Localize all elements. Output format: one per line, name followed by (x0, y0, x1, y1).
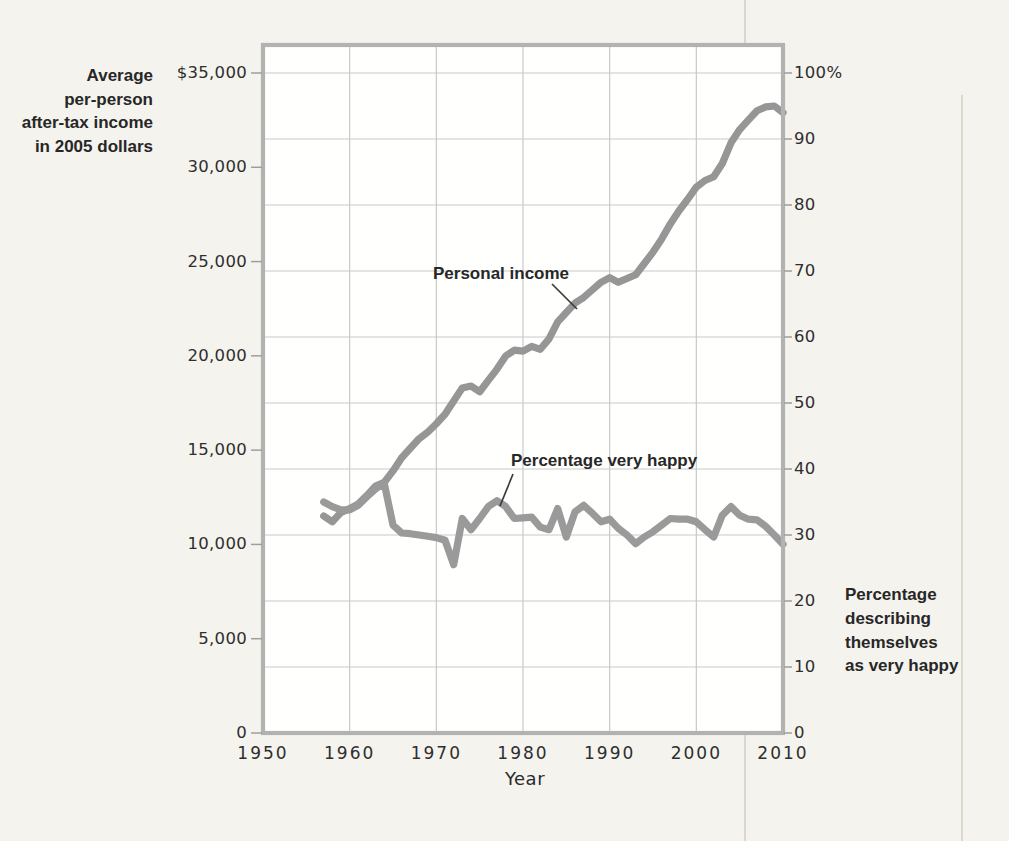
right-axis-tick-0: 0 (794, 723, 805, 742)
x-axis-tick-2010: 2010 (757, 743, 808, 763)
right-axis-tick-30: 30 (794, 525, 816, 544)
income-series-label: Personal income (433, 264, 569, 284)
x-axis-tick-1970: 1970 (411, 743, 462, 763)
happiness-series-label: Percentage very happy (511, 451, 697, 471)
right-axis-tick-60: 60 (794, 327, 816, 346)
left-axis-title-line3: after-tax income (22, 111, 153, 135)
right-axis-tick-50: 50 (794, 393, 816, 412)
left-axis-title-line4: in 2005 dollars (22, 135, 153, 159)
left-axis-tick-35000: $35,000 (177, 63, 247, 82)
x-axis-title: Year (505, 768, 545, 789)
x-axis-tick-1980: 1980 (497, 743, 548, 763)
left-axis-tick-25000: 25,000 (187, 251, 247, 270)
right-axis-tick-100: 100% (794, 63, 842, 82)
left-axis-title-line1: Average (22, 64, 153, 88)
right-axis-tick-40: 40 (794, 459, 816, 478)
right-axis-tick-20: 20 (794, 591, 816, 610)
right-axis-title: Percentage describing themselves as very… (845, 583, 958, 678)
x-axis-tick-1950: 1950 (237, 743, 288, 763)
right-axis-tick-70: 70 (794, 261, 816, 280)
x-axis-tick-2000: 2000 (671, 743, 722, 763)
left-axis-tick-30000: 30,000 (187, 157, 247, 176)
right-axis-title-line2: describing (845, 607, 958, 631)
book-page: Average per-person after-tax income in 2… (0, 0, 1009, 841)
left-axis-title: Average per-person after-tax income in 2… (22, 64, 153, 158)
left-axis-tick-20000: 20,000 (187, 346, 247, 365)
left-axis-tick-5000: 5,000 (198, 628, 247, 647)
left-axis-tick-15000: 15,000 (187, 440, 247, 459)
right-axis-title-line3: themselves (845, 631, 958, 655)
right-axis-title-line1: Percentage (845, 583, 958, 607)
left-axis-tick-10000: 10,000 (187, 534, 247, 553)
x-axis-tick-1990: 1990 (584, 743, 635, 763)
right-axis-tick-90: 90 (794, 129, 816, 148)
left-axis-tick-0: 0 (236, 723, 247, 742)
right-axis-title-line4: as very happy (845, 654, 958, 678)
left-axis-title-line2: per-person (22, 88, 153, 112)
x-axis-tick-1960: 1960 (324, 743, 375, 763)
right-axis-tick-10: 10 (794, 657, 816, 676)
right-axis-tick-80: 80 (794, 195, 816, 214)
